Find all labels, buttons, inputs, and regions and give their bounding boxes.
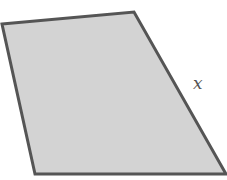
quadrilateral-shape	[2, 12, 226, 174]
side-length-label-x: x	[193, 73, 203, 93]
quadrilateral-figure: x	[0, 0, 227, 180]
diagram-canvas: x	[0, 0, 227, 180]
